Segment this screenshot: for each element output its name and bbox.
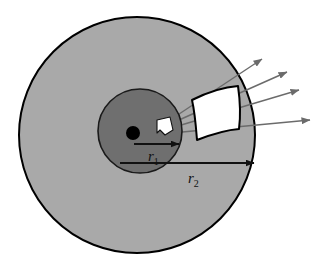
scattering-geometry-figure: r1 r2: [0, 0, 327, 275]
r2-label-subscript: 2: [194, 178, 199, 189]
r1-label-subscript: 1: [154, 156, 159, 167]
point-source: [126, 126, 140, 140]
diagram-canvas: r1 r2: [0, 0, 327, 275]
